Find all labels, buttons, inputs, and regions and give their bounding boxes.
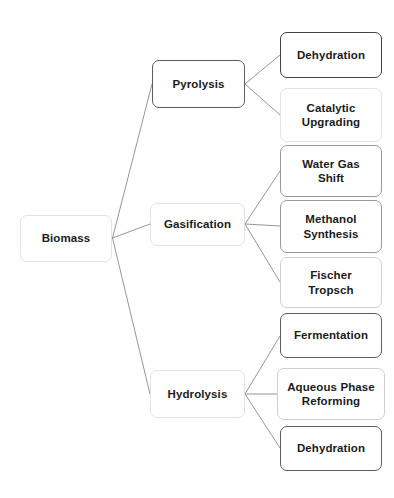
- edge-gasification-methanol-synthesis: [245, 224, 280, 226]
- edge-pyrolysis-dehydration: [245, 55, 280, 84]
- node-dehydration-hydrolysis-label: Dehydration: [293, 441, 369, 455]
- edge-gasification-water-gas-shift: [245, 171, 280, 224]
- node-biomass[interactable]: Biomass: [20, 215, 112, 262]
- edge-hydrolysis-fermentation: [245, 336, 280, 394]
- edge-biomass-gasification: [113, 224, 151, 238]
- node-fermentation[interactable]: Fermentation: [280, 313, 382, 358]
- node-hydrolysis-label: Hydrolysis: [164, 387, 232, 401]
- node-gasification[interactable]: Gasification: [150, 203, 245, 246]
- node-dehydration-pyrolysis[interactable]: Dehydration: [280, 32, 382, 78]
- edge-pyrolysis-catalytic-upgrading: [245, 84, 280, 115]
- node-hydrolysis[interactable]: Hydrolysis: [150, 370, 245, 418]
- node-fischer-tropsch[interactable]: Fischer Tropsch: [280, 257, 382, 308]
- node-water-gas-shift-label: Water Gas Shift: [298, 157, 363, 185]
- node-aqueous-phase-reforming-label: Aqueous Phase Reforming: [283, 380, 379, 408]
- edge-biomass-hydrolysis: [113, 238, 151, 394]
- node-biomass-label: Biomass: [38, 231, 95, 245]
- node-methanol-synthesis-label: Methanol Synthesis: [299, 212, 362, 240]
- node-catalytic-upgrading[interactable]: Catalytic Upgrading: [280, 88, 382, 142]
- node-catalytic-upgrading-label: Catalytic Upgrading: [298, 101, 364, 129]
- node-dehydration-pyrolysis-label: Dehydration: [293, 48, 369, 62]
- node-fermentation-label: Fermentation: [290, 328, 372, 342]
- node-pyrolysis[interactable]: Pyrolysis: [152, 60, 245, 108]
- node-fischer-tropsch-label: Fischer Tropsch: [304, 268, 357, 296]
- node-pyrolysis-label: Pyrolysis: [168, 77, 228, 91]
- edge-hydrolysis-dehydration: [245, 394, 280, 448]
- node-water-gas-shift[interactable]: Water Gas Shift: [280, 145, 382, 197]
- node-methanol-synthesis[interactable]: Methanol Synthesis: [280, 200, 382, 253]
- node-aqueous-phase-reforming[interactable]: Aqueous Phase Reforming: [277, 368, 385, 420]
- edge-biomass-pyrolysis: [113, 84, 153, 238]
- diagram-canvas: Biomass Pyrolysis Gasification Hydrolysi…: [0, 0, 394, 498]
- node-dehydration-hydrolysis[interactable]: Dehydration: [280, 426, 382, 471]
- edge-gasification-fischer-tropsch: [245, 224, 280, 282]
- node-gasification-label: Gasification: [160, 217, 235, 231]
